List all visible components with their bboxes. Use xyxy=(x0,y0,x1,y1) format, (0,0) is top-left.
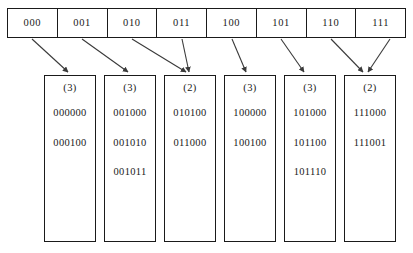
arrow-000-to-bucket-1 xyxy=(32,39,68,72)
directory-cell-label: 111 xyxy=(372,18,389,29)
bucket-1[interactable]: (3) 000000 000100 xyxy=(44,75,96,242)
bucket-key: 010100 xyxy=(165,108,215,119)
bucket-key: 000000 xyxy=(45,108,95,119)
bucket-depth-label: (2) xyxy=(165,83,215,94)
directory-cell-110[interactable]: 110 xyxy=(307,9,357,37)
bucket-key: 100000 xyxy=(225,108,275,119)
bucket-key: 111001 xyxy=(345,138,395,149)
bucket-6[interactable]: (2) 111000 111001 xyxy=(344,75,396,242)
bucket-depth-label: (3) xyxy=(285,83,335,94)
directory-cell-101[interactable]: 101 xyxy=(257,9,307,37)
bucket-3[interactable]: (2) 010100 011000 xyxy=(164,75,216,242)
bucket-key: 001011 xyxy=(105,167,155,178)
directory-cell-001[interactable]: 001 xyxy=(58,9,108,37)
bucket-key: 000100 xyxy=(45,138,95,149)
bucket-key: 001010 xyxy=(105,138,155,149)
bucket-key: 101110 xyxy=(285,167,335,178)
arrow-111-to-bucket-6 xyxy=(368,39,390,72)
directory-cell-label: 000 xyxy=(24,18,42,29)
arrow-011-to-bucket-3 xyxy=(182,39,189,72)
bucket-key: 001000 xyxy=(105,108,155,119)
directory-cell-010[interactable]: 010 xyxy=(108,9,158,37)
bucket-key: 011000 xyxy=(165,138,215,149)
bucket-key-list: 010100 011000 xyxy=(165,108,215,167)
directory-cell-100[interactable]: 100 xyxy=(207,9,257,37)
directory-cell-label: 100 xyxy=(223,18,241,29)
arrow-010-to-bucket-3 xyxy=(132,39,186,72)
directory-cell-label: 110 xyxy=(322,18,339,29)
bucket-key-list: 101000 101100 101110 xyxy=(285,108,335,197)
bucket-key-list: 000000 000100 xyxy=(45,108,95,167)
bucket-key-list: 111000 111001 xyxy=(345,108,395,167)
bucket-5[interactable]: (3) 101000 101100 101110 xyxy=(284,75,336,242)
directory-cell-label: 011 xyxy=(173,18,190,29)
arrow-001-to-bucket-2 xyxy=(82,39,128,72)
arrow-101-to-bucket-5 xyxy=(281,39,304,72)
arrow-100-to-bucket-4 xyxy=(232,39,246,72)
bucket-key: 101100 xyxy=(285,138,335,149)
directory-cell-000[interactable]: 000 xyxy=(8,9,58,37)
directory-cell-label: 010 xyxy=(123,18,141,29)
bucket-key-list: 001000 001010 001011 xyxy=(105,108,155,197)
bucket-key: 101000 xyxy=(285,108,335,119)
extendible-hashing-figure: 000 001 010 011 100 101 110 111 (3) 0000… xyxy=(0,0,413,253)
directory-cell-111[interactable]: 111 xyxy=(356,9,405,37)
bucket-key-list: 100000 100100 xyxy=(225,108,275,167)
hash-directory: 000 001 010 011 100 101 110 111 xyxy=(7,8,406,38)
bucket-depth-label: (3) xyxy=(105,83,155,94)
bucket-depth-label: (3) xyxy=(225,83,275,94)
directory-cell-label: 101 xyxy=(272,18,290,29)
bucket-4[interactable]: (3) 100000 100100 xyxy=(224,75,276,242)
bucket-2[interactable]: (3) 001000 001010 001011 xyxy=(104,75,156,242)
bucket-key: 100100 xyxy=(225,138,275,149)
bucket-depth-label: (3) xyxy=(45,83,95,94)
directory-cell-011[interactable]: 011 xyxy=(157,9,207,37)
directory-cell-label: 001 xyxy=(73,18,91,29)
bucket-key: 111000 xyxy=(345,108,395,119)
bucket-depth-label: (2) xyxy=(345,83,395,94)
arrow-110-to-bucket-6 xyxy=(331,39,363,72)
